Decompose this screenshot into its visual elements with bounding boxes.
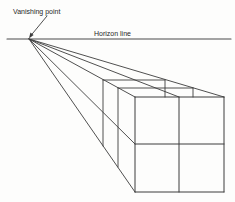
perspective-diagram: Vanishing point Horizon line <box>0 0 235 202</box>
vanishing-point-label: Vanishing point <box>13 8 60 16</box>
vp-arrow-shaft <box>31 16 48 36</box>
receding-line-bottom-left <box>29 39 135 192</box>
line-layer <box>7 16 231 192</box>
horizon-line-label: Horizon line <box>94 30 131 37</box>
diagram-canvas: Vanishing point Horizon line <box>0 0 235 202</box>
